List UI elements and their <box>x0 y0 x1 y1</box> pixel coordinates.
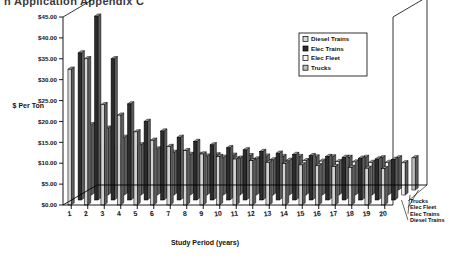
x-tick-label: 15 <box>296 210 305 218</box>
x-tick-label: 1 <box>67 210 72 217</box>
bar <box>266 160 272 205</box>
bar <box>101 103 107 205</box>
x-tick-label: 7 <box>166 210 171 217</box>
bar <box>299 163 305 205</box>
bar <box>260 149 266 200</box>
chart-legend[interactable]: Diesel TrainsElec TrainsElec FleetTrucks <box>299 33 367 76</box>
legend-swatch <box>303 65 308 70</box>
depth-axis-label: Elec Fleet <box>410 204 436 210</box>
bar <box>276 151 282 200</box>
bar <box>282 161 288 205</box>
bar <box>392 157 398 200</box>
x-tick-label: 16 <box>313 210 322 218</box>
y-tick-label: $0.00 <box>42 201 58 208</box>
bar <box>309 154 315 200</box>
x-axis-title: Study Period (years) <box>171 239 239 247</box>
bar <box>315 164 321 205</box>
x-tick-label: 19 <box>362 210 371 218</box>
x-tick-label: 12 <box>247 210 256 218</box>
depth-axis-label: Elec Trains <box>410 211 440 217</box>
labels-layer: $0.00$5.00$10.00$15.00$20.00$25.00$30.00… <box>13 13 445 247</box>
x-tick-label: 18 <box>346 210 355 218</box>
x-tick-label: 9 <box>199 210 204 217</box>
bar <box>200 152 206 205</box>
bar <box>194 139 200 200</box>
x-tick-label: 3 <box>100 210 105 217</box>
bar <box>150 138 156 205</box>
y-tick-label: $35.00 <box>38 55 57 62</box>
y-axis-title: $ Per Ton <box>13 102 44 110</box>
bar <box>144 119 150 200</box>
x-tick-label: 20 <box>379 210 388 218</box>
bar <box>293 152 299 200</box>
depth-axis-label: Diesel Trains <box>410 217 445 223</box>
legend-swatch <box>303 36 308 41</box>
bar <box>243 148 249 200</box>
x-tick-label: 5 <box>133 210 138 217</box>
x-tick-label: 13 <box>263 210 272 218</box>
bar <box>78 51 84 200</box>
y-tick-label: $15.00 <box>38 139 57 146</box>
bar <box>134 130 140 205</box>
legend-swatch <box>303 46 308 51</box>
legend-label: Elec Trains <box>311 45 344 52</box>
bar <box>326 154 332 200</box>
bar <box>111 57 117 200</box>
bar <box>183 148 189 205</box>
bar <box>402 161 408 195</box>
x-tick-label: 4 <box>116 210 121 217</box>
legend-swatch <box>303 56 308 61</box>
legend-label: Trucks <box>311 64 332 71</box>
bar <box>249 159 255 205</box>
depth-axis-label: Trucks <box>410 198 428 204</box>
x-tick-label: 6 <box>149 210 154 217</box>
bar <box>233 157 239 205</box>
y-tick-label: $45.00 <box>38 13 57 20</box>
bar <box>216 154 222 205</box>
legend-item[interactable]: Trucks <box>303 64 332 71</box>
bar <box>342 155 348 200</box>
x-tick-label: 17 <box>329 210 338 218</box>
legend-label: Diesel Trains <box>311 35 350 42</box>
y-tick-label: $5.00 <box>42 180 58 187</box>
bar <box>177 135 183 200</box>
bar <box>359 156 365 200</box>
x-tick-label: 2 <box>83 210 88 217</box>
x-tick-label: 10 <box>214 210 223 218</box>
bar <box>84 57 90 205</box>
bar <box>381 166 387 205</box>
bar <box>68 67 74 205</box>
bar-chart-3d: $0.00$5.00$10.00$15.00$20.00$25.00$30.00… <box>0 0 466 266</box>
x-tick-label: 8 <box>182 210 187 217</box>
bar <box>161 129 167 200</box>
bar <box>210 143 216 200</box>
bar <box>375 157 381 200</box>
y-tick-label: $30.00 <box>38 76 57 83</box>
legend-label: Elec Fleet <box>311 54 340 61</box>
x-tick-label: 11 <box>230 210 238 218</box>
bar <box>95 14 101 200</box>
x-tick-label: 14 <box>280 210 289 218</box>
y-tick-label: $40.00 <box>38 34 57 41</box>
chart-container: n Application Appendix C $0.00$5.00$10.0… <box>0 0 466 266</box>
bar <box>117 113 123 205</box>
bar <box>167 144 173 205</box>
y-tick-label: $10.00 <box>38 159 57 166</box>
bar <box>365 166 371 205</box>
y-tick-label: $20.00 <box>38 118 57 125</box>
bar <box>227 146 233 200</box>
